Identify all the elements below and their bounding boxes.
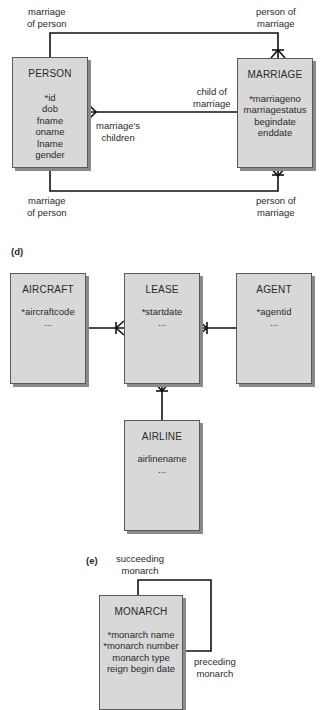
entity-lease: LEASE *startdate ... bbox=[124, 273, 200, 384]
entity-attributes: *marriageno marriagestatus begindate end… bbox=[238, 93, 312, 139]
entity-attributes: airlinename ... bbox=[125, 453, 199, 476]
label-marriage-of-person-bottom: marriageof person bbox=[27, 195, 67, 218]
entity-agent: AGENT *agentid ... bbox=[236, 273, 312, 384]
label-child-of-marriage: child ofmarriage bbox=[193, 86, 231, 109]
attribute: airlinename bbox=[125, 453, 199, 465]
entity-name: MONARCH bbox=[100, 606, 182, 618]
attribute: gender bbox=[13, 149, 87, 161]
entity-attributes: *monarch name *monarch number monarch ty… bbox=[100, 629, 182, 675]
marriage-of-person-top-line bbox=[50, 33, 278, 58]
attribute: dob bbox=[13, 103, 87, 115]
marriage-of-person-bottom-line bbox=[50, 168, 278, 191]
label-marriage-of-person-top: marriageof person bbox=[27, 6, 67, 29]
attribute: *marriageno bbox=[238, 93, 312, 105]
attribute: reign begin date bbox=[100, 663, 182, 675]
entity-person: PERSON *id dob fname oname lname gender bbox=[12, 57, 88, 168]
label-person-of-marriage-top: person ofmarriage bbox=[256, 6, 296, 29]
entity-name: AIRLINE bbox=[125, 431, 199, 443]
entity-monarch: MONARCH *monarch name *monarch number mo… bbox=[99, 595, 183, 710]
entity-attributes: *id dob fname oname lname gender bbox=[13, 92, 87, 161]
attribute: monarch type bbox=[100, 652, 182, 664]
attribute: ... bbox=[237, 317, 311, 329]
attribute: ... bbox=[11, 317, 85, 329]
label-marriages-children: marriage'schildren bbox=[96, 120, 140, 143]
entity-name: PERSON bbox=[13, 68, 87, 80]
part-label-d: (d) bbox=[11, 246, 23, 257]
entity-name: MARRIAGE bbox=[238, 69, 312, 81]
attribute: *agentid bbox=[237, 306, 311, 318]
attribute: ... bbox=[125, 317, 199, 329]
attribute: fname bbox=[13, 115, 87, 127]
entity-aircraft: AIRCRAFT *aircraftcode ... bbox=[10, 273, 86, 384]
attribute: enddate bbox=[238, 127, 312, 139]
attribute: marriagestatus bbox=[238, 104, 312, 116]
attribute: *monarch number bbox=[100, 640, 182, 652]
attribute: begindate bbox=[238, 116, 312, 128]
entity-attributes: *agentid ... bbox=[237, 306, 311, 329]
label-succeeding-monarch: succeedingmonarch bbox=[116, 553, 164, 576]
label-person-of-marriage-bottom: person ofmarriage bbox=[256, 195, 296, 218]
attribute: *aircraftcode bbox=[11, 306, 85, 318]
entity-name: AGENT bbox=[237, 284, 311, 296]
entity-marriage: MARRIAGE *marriageno marriagestatus begi… bbox=[237, 58, 313, 168]
entity-name: LEASE bbox=[125, 284, 199, 296]
attribute: ... bbox=[125, 464, 199, 476]
entity-name: AIRCRAFT bbox=[11, 284, 85, 296]
attribute: *startdate bbox=[125, 306, 199, 318]
part-label-e: (e) bbox=[86, 555, 98, 566]
entity-airline: AIRLINE airlinename ... bbox=[124, 420, 200, 531]
attribute: oname bbox=[13, 126, 87, 138]
attribute: *id bbox=[13, 92, 87, 104]
attribute: *monarch name bbox=[100, 629, 182, 641]
label-preceding-monarch: precedingmonarch bbox=[194, 656, 236, 679]
entity-attributes: *aircraftcode ... bbox=[11, 306, 85, 329]
attribute: lname bbox=[13, 138, 87, 150]
entity-attributes: *startdate ... bbox=[125, 306, 199, 329]
